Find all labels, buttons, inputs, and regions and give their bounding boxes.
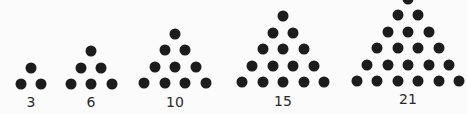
dot <box>106 79 117 90</box>
dot <box>180 78 191 89</box>
dot <box>86 46 97 57</box>
dot <box>26 62 37 73</box>
dot <box>267 27 278 38</box>
dot <box>86 79 97 90</box>
dot <box>149 61 160 72</box>
dot <box>392 43 403 54</box>
dot <box>433 76 444 87</box>
triangular-numbers-diagram: 36101521 <box>0 0 467 114</box>
dot <box>257 77 268 88</box>
dot <box>170 28 181 39</box>
dot <box>444 59 455 70</box>
dot <box>423 59 434 70</box>
dot <box>298 77 309 88</box>
dot <box>413 76 424 87</box>
dot <box>190 61 201 72</box>
dot <box>382 26 393 37</box>
dot <box>247 60 258 71</box>
count-label: 6 <box>87 94 96 110</box>
dot <box>75 62 86 73</box>
dot <box>200 78 211 89</box>
dot <box>237 77 248 88</box>
dot <box>413 43 424 54</box>
dot <box>319 77 330 88</box>
dot <box>372 43 383 54</box>
dot <box>413 10 424 21</box>
dot <box>170 61 181 72</box>
dot <box>433 43 444 54</box>
dot <box>36 79 47 90</box>
dot <box>403 0 414 4</box>
dot <box>278 44 289 55</box>
dot <box>298 44 309 55</box>
dot <box>403 26 414 37</box>
dot <box>454 76 465 87</box>
count-label: 10 <box>166 94 184 110</box>
dot <box>362 59 373 70</box>
count-label: 21 <box>399 91 417 107</box>
dot <box>351 76 362 87</box>
dot <box>257 44 268 55</box>
dot <box>382 59 393 70</box>
dot <box>372 76 383 87</box>
dot <box>278 77 289 88</box>
dot <box>65 79 76 90</box>
count-label: 3 <box>27 94 36 110</box>
count-label: 15 <box>274 93 292 109</box>
dot <box>278 11 289 22</box>
dot <box>423 26 434 37</box>
dot <box>392 76 403 87</box>
dot <box>180 45 191 56</box>
dot <box>267 60 278 71</box>
dot <box>308 60 319 71</box>
dot <box>392 10 403 21</box>
dot <box>15 79 26 90</box>
dot <box>159 45 170 56</box>
dot <box>139 78 150 89</box>
dot <box>96 62 107 73</box>
dot <box>159 78 170 89</box>
dot <box>288 27 299 38</box>
dot <box>403 59 414 70</box>
dot <box>288 60 299 71</box>
